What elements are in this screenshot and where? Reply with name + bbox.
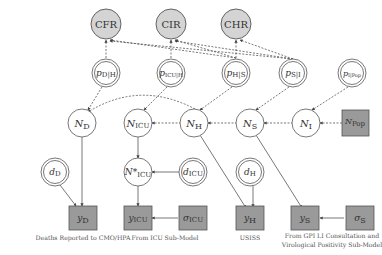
node-n-h: NH: [180, 109, 208, 137]
node-n-d: ND: [68, 109, 96, 137]
node-y-d: yD: [69, 206, 97, 230]
dag-diagram: CFR CIR CHR pD|H pICU|H pH|S pS|I: [0, 0, 382, 255]
svg-text:yS: yS: [299, 213, 311, 225]
captions: Deaths Reported to CMO/HPA From ICU Sub-…: [36, 232, 382, 249]
node-cfr-label: CFR: [95, 19, 118, 30]
node-d-icu: dICU: [179, 158, 207, 186]
svg-text:σS: σS: [354, 213, 366, 225]
node-p-s-i: pS|I: [279, 59, 307, 87]
caption-gp-line1: From GPI LI Consultation and: [285, 232, 379, 239]
node-p-i-pop: pI|Pop: [338, 59, 366, 87]
node-d-d: dD: [41, 158, 69, 186]
node-cfr: CFR: [91, 9, 121, 39]
top-nodes: CFR CIR CHR: [91, 9, 251, 39]
node-n-icu-star: N*ICU: [124, 158, 152, 186]
node-cir: CIR: [156, 9, 186, 39]
caption-gp-line2: Virological Positivity Sub-Model: [281, 241, 382, 249]
node-n-pop: NPop: [342, 110, 369, 136]
probability-nodes: pD|H pICU|H pH|S pS|I pI|Pop: [92, 59, 366, 87]
node-chr-label: CHR: [224, 19, 248, 30]
node-sigma-s: σS: [346, 206, 374, 230]
node-n-i: NI: [292, 109, 320, 137]
node-p-h-s: pH|S: [222, 59, 250, 87]
dashed-edges-top: [106, 40, 293, 59]
caption-deaths: Deaths Reported to CMO/HPA: [36, 234, 131, 242]
node-y-icu: yICU: [124, 206, 152, 230]
node-cir-label: CIR: [161, 19, 181, 30]
caption-uss: USISS: [240, 234, 260, 241]
node-p-icu-h: pICU|H: [157, 59, 185, 87]
svg-text:yD: yD: [76, 213, 89, 225]
node-n-s: NS: [236, 109, 264, 137]
caption-icu: From ICU Sub-Model: [131, 234, 198, 241]
node-p-d-h: pD|H: [92, 59, 120, 87]
node-y-s: yS: [291, 206, 319, 230]
node-chr: CHR: [221, 9, 251, 39]
node-n-icu: NICU: [124, 109, 152, 137]
node-d-h: dH: [236, 158, 264, 186]
svg-text:yH: yH: [243, 213, 256, 225]
node-sigma-icu: σICU: [179, 206, 207, 230]
node-y-h: yH: [236, 206, 264, 230]
